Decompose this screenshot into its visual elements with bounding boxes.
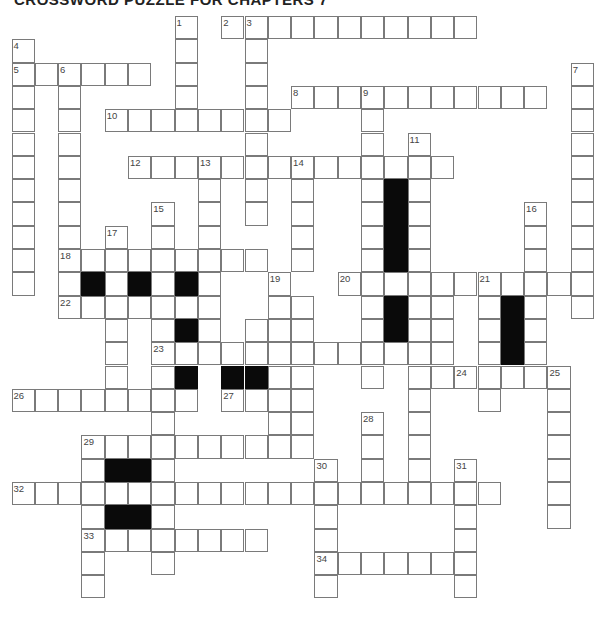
grid-cell[interactable] [175, 482, 198, 505]
grid-cell[interactable] [198, 226, 221, 249]
grid-cell[interactable]: 19 [268, 272, 291, 295]
grid-cell[interactable] [454, 16, 477, 39]
grid-cell[interactable] [151, 552, 174, 575]
grid-cell[interactable] [361, 459, 384, 482]
grid-cell[interactable] [431, 552, 454, 575]
grid-cell[interactable]: 3 [245, 16, 268, 39]
grid-cell[interactable] [408, 202, 431, 225]
grid-cell[interactable] [12, 86, 35, 109]
grid-cell[interactable] [12, 133, 35, 156]
grid-cell[interactable] [128, 249, 151, 272]
grid-cell[interactable] [501, 366, 524, 389]
grid-cell[interactable]: 7 [571, 63, 594, 86]
grid-cell[interactable] [151, 109, 174, 132]
grid-cell[interactable] [478, 86, 501, 109]
grid-cell[interactable] [81, 249, 104, 272]
grid-cell[interactable] [198, 319, 221, 342]
grid-cell[interactable] [151, 529, 174, 552]
grid-cell[interactable] [151, 482, 174, 505]
grid-cell[interactable] [221, 529, 244, 552]
grid-cell[interactable] [35, 63, 58, 86]
grid-cell[interactable] [408, 459, 431, 482]
grid-cell[interactable]: 24 [454, 366, 477, 389]
grid-cell[interactable]: 4 [12, 39, 35, 62]
grid-cell[interactable] [408, 552, 431, 575]
grid-cell[interactable] [291, 249, 314, 272]
grid-cell[interactable] [268, 16, 291, 39]
grid-cell[interactable] [361, 366, 384, 389]
grid-cell[interactable] [268, 156, 291, 179]
grid-cell[interactable] [198, 109, 221, 132]
grid-cell[interactable] [175, 63, 198, 86]
grid-cell[interactable] [105, 319, 128, 342]
grid-cell[interactable]: 9 [361, 86, 384, 109]
grid-cell[interactable] [58, 156, 81, 179]
grid-cell[interactable] [571, 156, 594, 179]
grid-cell[interactable] [245, 63, 268, 86]
grid-cell[interactable] [105, 389, 128, 412]
grid-cell[interactable] [35, 389, 58, 412]
grid-cell[interactable] [291, 389, 314, 412]
grid-cell[interactable] [314, 16, 337, 39]
grid-cell[interactable] [408, 156, 431, 179]
grid-cell[interactable] [314, 505, 337, 528]
grid-cell[interactable] [408, 482, 431, 505]
grid-cell[interactable] [58, 272, 81, 295]
grid-cell[interactable]: 15 [151, 202, 174, 225]
grid-cell[interactable] [58, 226, 81, 249]
grid-cell[interactable] [245, 249, 268, 272]
grid-cell[interactable] [58, 179, 81, 202]
grid-cell[interactable] [571, 272, 594, 295]
grid-cell[interactable] [338, 342, 361, 365]
grid-cell[interactable] [408, 179, 431, 202]
grid-cell[interactable] [58, 86, 81, 109]
grid-cell[interactable] [81, 505, 104, 528]
grid-cell[interactable] [431, 366, 454, 389]
grid-cell[interactable] [268, 435, 291, 458]
grid-cell[interactable] [431, 272, 454, 295]
grid-cell[interactable] [81, 459, 104, 482]
grid-cell[interactable] [175, 109, 198, 132]
grid-cell[interactable] [524, 86, 547, 109]
grid-cell[interactable] [268, 296, 291, 319]
grid-cell[interactable] [454, 552, 477, 575]
grid-cell[interactable] [198, 202, 221, 225]
grid-cell[interactable] [431, 16, 454, 39]
grid-cell[interactable] [81, 63, 104, 86]
grid-cell[interactable] [291, 16, 314, 39]
grid-cell[interactable] [128, 389, 151, 412]
grid-cell[interactable] [268, 366, 291, 389]
grid-cell[interactable] [314, 575, 337, 598]
grid-cell[interactable] [105, 366, 128, 389]
grid-cell[interactable] [338, 156, 361, 179]
grid-cell[interactable] [524, 249, 547, 272]
grid-cell[interactable] [408, 435, 431, 458]
grid-cell[interactable]: 1 [175, 16, 198, 39]
grid-cell[interactable] [151, 272, 174, 295]
grid-cell[interactable] [454, 505, 477, 528]
grid-cell[interactable] [12, 202, 35, 225]
grid-cell[interactable] [361, 109, 384, 132]
grid-cell[interactable] [245, 109, 268, 132]
grid-cell[interactable] [105, 296, 128, 319]
grid-cell[interactable] [524, 296, 547, 319]
grid-cell[interactable] [245, 86, 268, 109]
grid-cell[interactable] [105, 249, 128, 272]
grid-cell[interactable] [338, 16, 361, 39]
grid-cell[interactable] [571, 109, 594, 132]
grid-cell[interactable] [361, 482, 384, 505]
grid-cell[interactable] [384, 86, 407, 109]
grid-cell[interactable] [81, 296, 104, 319]
grid-cell[interactable] [361, 435, 384, 458]
grid-cell[interactable] [175, 389, 198, 412]
grid-cell[interactable] [291, 202, 314, 225]
grid-cell[interactable] [361, 552, 384, 575]
grid-cell[interactable]: 11 [408, 133, 431, 156]
grid-cell[interactable] [12, 272, 35, 295]
grid-cell[interactable] [175, 249, 198, 272]
grid-cell[interactable] [571, 249, 594, 272]
grid-cell[interactable] [291, 366, 314, 389]
grid-cell[interactable]: 30 [314, 459, 337, 482]
grid-cell[interactable] [384, 272, 407, 295]
grid-cell[interactable] [81, 389, 104, 412]
